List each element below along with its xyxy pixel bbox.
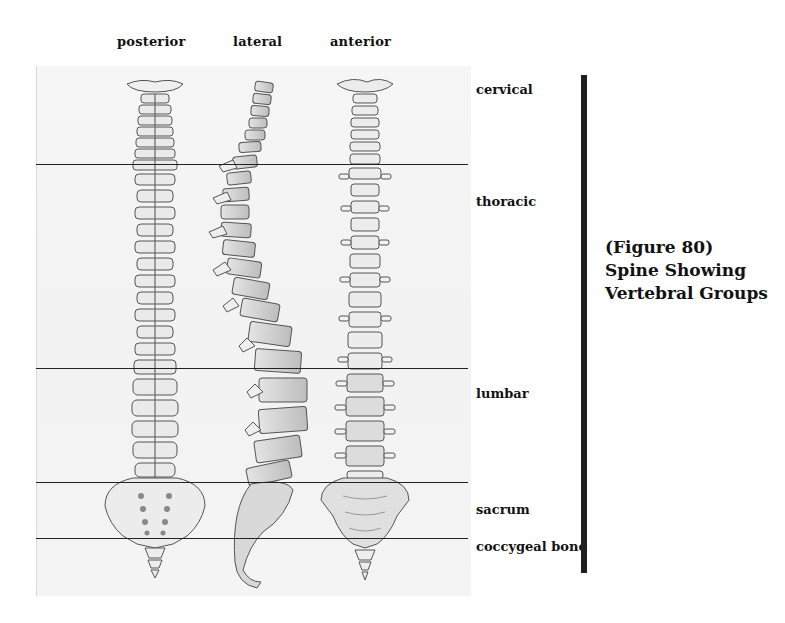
region-label-sacrum: sacrum [476, 502, 530, 517]
divider-cervical-thoracic [36, 164, 468, 165]
divider-lumbar-sacrum [36, 482, 468, 483]
region-label-coccygeal-bone: coccygeal bone [476, 539, 587, 554]
spine-drawing-svg [37, 66, 471, 596]
vertical-bar [581, 75, 587, 573]
caption-title-line2: Vertebral Groups [605, 282, 768, 305]
caption-title-line1: Spine Showing [605, 259, 768, 282]
region-label-lumbar: lumbar [476, 386, 529, 401]
posterior-spine [105, 80, 205, 578]
view-label-lateral: lateral [233, 34, 282, 49]
region-label-thoracic: thoracic [476, 194, 536, 209]
spine-illustration [36, 66, 471, 596]
anterior-spine [321, 79, 409, 580]
figure-caption: (Figure 80) Spine Showing Vertebral Grou… [605, 236, 768, 305]
lateral-spine [209, 81, 308, 588]
region-label-cervical: cervical [476, 82, 533, 97]
divider-sacrum-coccyx [36, 538, 468, 539]
divider-thoracic-lumbar [36, 368, 468, 369]
caption-figure-number: (Figure 80) [605, 236, 768, 259]
view-label-anterior: anterior [330, 34, 391, 49]
view-label-posterior: posterior [117, 34, 185, 49]
